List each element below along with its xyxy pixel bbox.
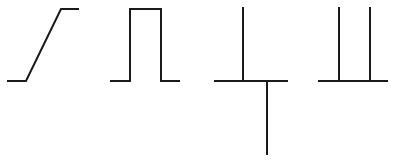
waveform-figure bbox=[0, 0, 396, 162]
waveform-canvas bbox=[0, 0, 396, 162]
